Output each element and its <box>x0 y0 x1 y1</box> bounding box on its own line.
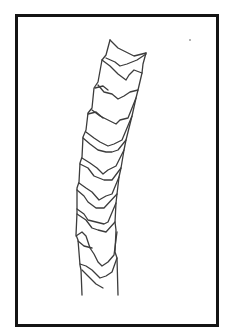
segmented-stem-sketch <box>0 0 228 335</box>
stray-dot <box>189 39 191 41</box>
